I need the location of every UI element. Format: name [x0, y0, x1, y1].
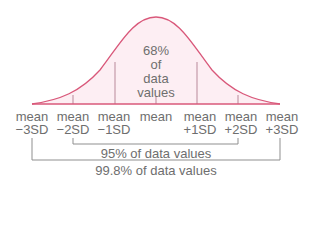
axis-label-plus-1sd: mean +1SD — [178, 110, 222, 136]
axis-label-minus-1sd: mean −1SD — [92, 110, 136, 136]
axis-label-bottom: +3SD — [260, 123, 304, 136]
axis-label-mean: mean — [134, 110, 178, 123]
axis-label-bottom: +1SD — [178, 123, 222, 136]
axis-label-plus-3sd: mean +3SD — [260, 110, 304, 136]
axis-label-minus-3sd: mean −3SD — [10, 110, 54, 136]
axis-label-top: mean — [134, 110, 178, 123]
axis-label-minus-2sd: mean −2SD — [51, 110, 95, 136]
axis-label-plus-2sd: mean +2SD — [219, 110, 263, 136]
center-label-line: of — [126, 58, 186, 72]
bracket-99-8-label: 99.8% of data values — [56, 164, 256, 177]
bracket-95-label: 95% of data values — [56, 147, 256, 160]
bracket-95 — [73, 138, 238, 144]
axis-label-bottom: −3SD — [10, 123, 54, 136]
center-label-68: 68% of data values — [126, 44, 186, 100]
axis-label-bottom: −1SD — [92, 123, 136, 136]
center-label-line: 68% — [126, 44, 186, 58]
center-label-line: data — [126, 72, 186, 86]
axis-label-bottom: −2SD — [51, 123, 95, 136]
center-label-line: values — [126, 86, 186, 100]
axis-label-bottom: +2SD — [219, 123, 263, 136]
